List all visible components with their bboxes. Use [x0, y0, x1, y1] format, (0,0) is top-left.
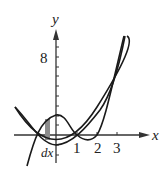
x-axis-arrow-icon — [139, 132, 150, 138]
y-axis-arrow-icon — [53, 29, 59, 40]
dx-label: dx — [41, 145, 54, 160]
x-axis-label: x — [151, 127, 159, 143]
x-tick-1: 1 — [73, 140, 81, 156]
area-between-curves-figure: y x 8 1 2 3 dx — [0, 0, 168, 172]
x-axis — [14, 132, 150, 138]
x-tick-2: 2 — [94, 140, 102, 156]
y-axis-label: y — [50, 11, 59, 27]
x-tick-3: 3 — [113, 140, 121, 156]
y-axis — [53, 29, 59, 163]
y-tick-8: 8 — [40, 50, 48, 66]
